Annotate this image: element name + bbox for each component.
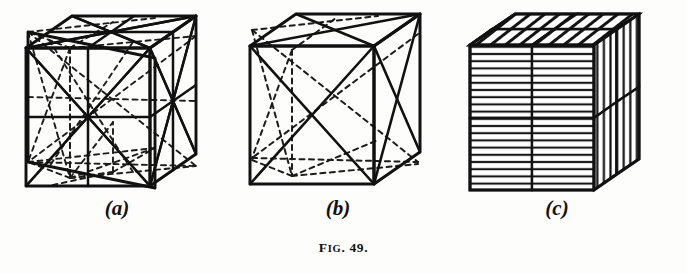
panel-label-b: (b) bbox=[293, 196, 383, 221]
panel-label-a: (a) bbox=[72, 196, 162, 221]
cube-c bbox=[470, 14, 639, 190]
cube-c-front-face bbox=[470, 45, 594, 190]
cube-a bbox=[26, 16, 196, 188]
figure-illustration bbox=[0, 0, 687, 273]
caption-prefix: F bbox=[319, 240, 328, 255]
figure-caption: FIG. 49. bbox=[0, 240, 687, 256]
figure-root: (a) (b) (c) FIG. 49. bbox=[0, 0, 687, 273]
caption-number: . 49. bbox=[342, 240, 369, 255]
cube-b bbox=[250, 14, 420, 184]
panel-label-c: (c) bbox=[512, 196, 602, 221]
caption-smallcaps: IG bbox=[328, 243, 342, 254]
